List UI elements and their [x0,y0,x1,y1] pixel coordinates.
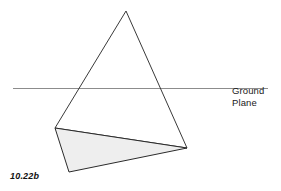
shaded-triangle [55,128,187,172]
ground-plane-label: Ground Plane [232,85,264,108]
figure-caption: 10.22b [10,171,39,181]
ground-plane-label-line2: Plane [232,97,264,109]
main-triangle [55,11,187,148]
figure-container: Ground Plane 10.22b [0,0,281,191]
ground-plane-label-line1: Ground [232,85,264,97]
